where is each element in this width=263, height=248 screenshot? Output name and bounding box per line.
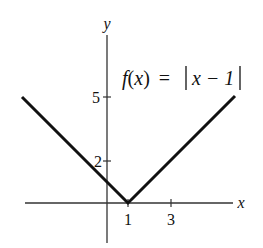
paren-close: ) xyxy=(143,67,150,90)
function-graph xyxy=(22,96,235,203)
y-axis-label: y xyxy=(101,15,111,33)
abs-expression: x − 1 xyxy=(191,67,234,89)
x-tick-label: 3 xyxy=(167,211,175,228)
y-tick-label: 5 xyxy=(92,89,100,106)
function-label: f(x) = x − 1 xyxy=(122,66,240,90)
x-axis-label: x xyxy=(236,194,244,211)
svg-text:f(x) =: f(x) = xyxy=(122,67,170,90)
function-arg: x xyxy=(133,67,143,89)
chart-canvas: 1 3 5 2 y x f(x) = x − 1 xyxy=(0,0,263,248)
equals-sign: = xyxy=(159,67,170,89)
x-tick-label: 1 xyxy=(124,211,132,228)
y-tick-label: 2 xyxy=(94,153,102,170)
y-tick-5: 5 xyxy=(92,89,111,106)
y-tick-2: 2 xyxy=(94,153,111,170)
